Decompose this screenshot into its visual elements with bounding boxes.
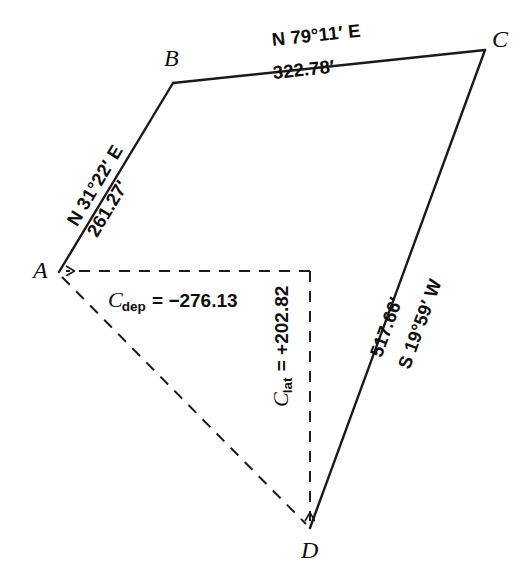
departure-subscript: dep [122, 299, 146, 314]
latitude-value: +202.82 [271, 286, 292, 355]
latitude-correction-label: Clat = +202.82 [270, 286, 292, 407]
vertex-label-a: A [33, 258, 48, 282]
traverse-geometry-svg [0, 0, 531, 581]
vertex-label-d: D [301, 538, 318, 562]
latitude-equals: = [271, 360, 292, 371]
latitude-subscript: lat [280, 378, 295, 394]
vertex-label-c: C [492, 27, 508, 51]
departure-correction-label: Cdep = −276.13 [108, 289, 238, 311]
departure-equals: = [152, 290, 163, 311]
survey-traverse-diagram: A B C D N 79°11′ E 322.78′ N 31°22′ E 26… [0, 0, 531, 581]
latitude-symbol: C [268, 392, 293, 407]
vertex-label-b: B [164, 46, 179, 70]
departure-symbol: C [108, 287, 123, 312]
departure-value: −276.13 [168, 290, 237, 311]
edge-cd-line [310, 50, 485, 528]
